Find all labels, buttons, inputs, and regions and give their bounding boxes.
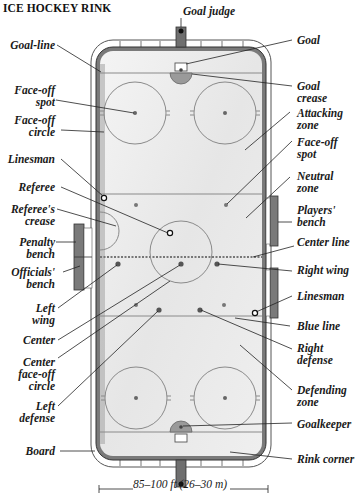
label-left-wing: Left wing bbox=[32, 302, 55, 326]
label-faceoff-spot-left: Face-off spot bbox=[14, 84, 55, 108]
goal-bottom bbox=[175, 434, 187, 442]
label-defending-zone: Defending zone bbox=[297, 384, 347, 408]
label-rink-corner: Rink corner bbox=[297, 453, 354, 465]
linesman-bottom bbox=[252, 310, 257, 315]
faceoff-spot-bottom-right bbox=[223, 396, 227, 400]
label-faceoff-spot-right: Face-off spot bbox=[297, 136, 338, 160]
faceoff-spot-bottom-left bbox=[134, 396, 138, 400]
label-referees-crease: Referee's crease bbox=[11, 203, 55, 227]
label-attacking-zone: Attacking zone bbox=[297, 107, 343, 131]
scale-label: 85–100 ft (26–30 m) bbox=[0, 478, 360, 490]
label-center: Center bbox=[23, 334, 55, 346]
label-officials-bench: Officials' bench bbox=[11, 266, 55, 290]
faceoff-spot-top-right bbox=[223, 111, 227, 115]
label-board: Board bbox=[26, 445, 55, 457]
label-neutral-zone: Neutral zone bbox=[297, 170, 333, 194]
label-referee: Referee bbox=[19, 181, 55, 193]
label-goal: Goal bbox=[297, 34, 320, 46]
label-faceoff-circle: Face-off circle bbox=[14, 114, 55, 138]
label-blue-line: Blue line bbox=[297, 320, 340, 332]
label-right-wing: Right wing bbox=[297, 264, 349, 276]
goalkeeper-bottom bbox=[179, 425, 183, 429]
label-linesman-left: Linesman bbox=[8, 153, 55, 165]
referee bbox=[167, 230, 172, 235]
label-center-line: Center line bbox=[297, 236, 350, 248]
label-left-defense: Left defense bbox=[19, 400, 55, 424]
diagram-title: ICE HOCKEY RINK bbox=[3, 2, 111, 14]
linesman-top bbox=[101, 195, 106, 200]
goalkeeper-top bbox=[179, 68, 183, 72]
label-right-defense: Right defense bbox=[297, 342, 333, 366]
players-bench-bottom-inner bbox=[266, 270, 270, 316]
label-goal-judge: Goal judge bbox=[183, 5, 235, 17]
label-penalty-bench: Penalty bench bbox=[19, 236, 55, 260]
neutral-spot-bottom-right bbox=[222, 303, 226, 307]
players-bench-bottom bbox=[270, 268, 278, 318]
players-bench-top bbox=[270, 196, 278, 246]
players-bench-top-inner bbox=[266, 198, 270, 244]
label-players-bench: Players' bench bbox=[297, 204, 335, 228]
label-goal-line: Goal-line bbox=[10, 39, 55, 51]
label-goal-crease: Goal crease bbox=[297, 80, 327, 104]
goal-judge-top bbox=[179, 29, 184, 34]
ice-shadow-strip bbox=[100, 64, 105, 444]
label-goalkeeper: Goalkeeper bbox=[297, 418, 351, 430]
label-center-faceoff-circle: Center face-off circle bbox=[18, 356, 55, 392]
officials-bench-inner bbox=[84, 228, 92, 288]
neutral-spot-top-left bbox=[134, 203, 138, 207]
label-linesman-right: Linesman bbox=[297, 290, 344, 302]
